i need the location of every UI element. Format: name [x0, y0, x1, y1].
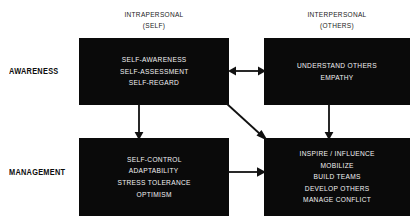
box-item: SELF-AWARENESS	[122, 54, 187, 66]
column-header-interpersonal: INTERPERSONAL (OTHERS)	[274, 9, 400, 31]
box-item: OPTIMISM	[136, 189, 171, 201]
column-header-interpersonal-line1: INTERPERSONAL	[307, 10, 366, 19]
box-item: SELF-CONTROL	[127, 154, 182, 166]
box-item: MOBILIZE	[320, 160, 353, 172]
row-label-awareness: AWARENESS	[9, 67, 72, 76]
emotional-intelligence-matrix-diagram: INTRAPERSONAL (SELF) INTERPERSONAL (OTHE…	[0, 0, 416, 221]
box-item: STRESS TOLERANCE	[117, 177, 190, 189]
box-item: MANAGE CONFLICT	[303, 194, 371, 206]
column-header-intrapersonal-line2: (SELF)	[90, 20, 219, 31]
column-header-interpersonal-line2: (OTHERS)	[274, 20, 400, 31]
column-header-intrapersonal-line1: INTRAPERSONAL	[124, 10, 183, 19]
box-self-awareness: SELF-AWARENESS SELF-ASSESSMENT SELF-REGA…	[79, 38, 229, 105]
arrow-other-vertical-down	[320, 104, 338, 140]
box-item: INSPIRE / INFLUENCE	[299, 148, 374, 160]
box-relationship-management: INSPIRE / INFLUENCE MOBILIZE BUILD TEAMS…	[264, 138, 410, 216]
box-item: UNDERSTAND OTHERS	[297, 60, 377, 72]
box-item: ADAPTABILITY	[129, 165, 179, 177]
column-header-intrapersonal: INTRAPERSONAL (SELF)	[90, 9, 219, 31]
box-item: SELF-REGARD	[129, 77, 179, 89]
box-self-management: SELF-CONTROL ADAPTABILITY STRESS TOLERAN…	[79, 138, 229, 216]
row-label-management: MANAGEMENT	[9, 168, 79, 177]
box-item: EMPATHY	[320, 72, 353, 84]
box-item: BUILD TEAMS	[313, 171, 360, 183]
arrow-management-horizontal-right	[228, 163, 266, 181]
arrow-awareness-horizontal-double	[228, 62, 266, 80]
arrow-diagonal-cross-down-right	[226, 103, 268, 141]
box-item: SELF-ASSESSMENT	[120, 66, 188, 78]
box-other-awareness: UNDERSTAND OTHERS EMPATHY	[264, 38, 410, 105]
arrow-self-vertical-down	[130, 104, 148, 140]
box-item: DEVELOP OTHERS	[305, 183, 370, 195]
